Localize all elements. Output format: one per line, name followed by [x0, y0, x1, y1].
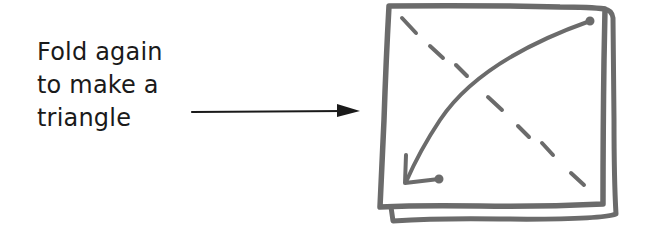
pointer-arrow-icon	[192, 104, 360, 117]
curved-fold-arrow-icon	[405, 19, 593, 184]
napkin-fold-diagram	[0, 0, 652, 233]
napkin-back-layer	[391, 9, 616, 221]
fold-line-dashed	[402, 18, 584, 185]
napkin-front-square	[380, 6, 605, 207]
